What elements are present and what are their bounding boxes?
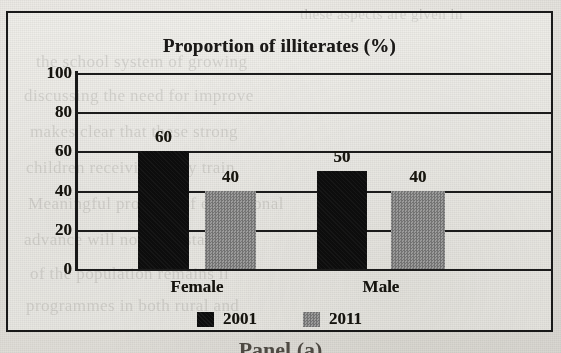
y-axis-tick-60: 60 bbox=[26, 141, 72, 161]
bar-female-2011[interactable] bbox=[205, 191, 256, 269]
bar-male-2001[interactable] bbox=[317, 171, 367, 269]
bar-value-label-female-2001: 60 bbox=[155, 127, 172, 147]
bar-male-2011[interactable] bbox=[391, 191, 445, 269]
scanned-page: these aspects are given in the school sy… bbox=[0, 0, 561, 353]
legend-label-2001: 2001 bbox=[223, 309, 257, 329]
bar-value-label-male-2001: 50 bbox=[334, 147, 351, 167]
plot-area: 60504040FemaleMale bbox=[77, 73, 553, 269]
y-axis-tick-80: 80 bbox=[26, 102, 72, 122]
black-swatch bbox=[197, 312, 214, 327]
gridline-0 bbox=[77, 269, 553, 271]
legend-item-2011[interactable]: 2011 bbox=[303, 309, 362, 329]
chart-frame: Proportion of illiterates (%) 0204060801… bbox=[6, 11, 553, 332]
bar-value-label-female-2011: 40 bbox=[222, 167, 239, 187]
y-axis-tick-labels: 020406080100 bbox=[22, 73, 72, 269]
category-label-female: Female bbox=[171, 277, 224, 297]
y-axis-tick-100: 100 bbox=[26, 63, 72, 83]
bar-female-2001[interactable] bbox=[138, 151, 189, 269]
bar-value-label-male-2011: 40 bbox=[410, 167, 427, 187]
gridline-80 bbox=[77, 112, 553, 114]
chart-legend: 20012011 bbox=[8, 309, 551, 329]
gridline-100 bbox=[77, 73, 553, 75]
gray-swatch bbox=[303, 312, 320, 327]
legend-item-2001[interactable]: 2001 bbox=[197, 309, 257, 329]
figure-caption: Panel (a) bbox=[0, 337, 561, 353]
category-label-male: Male bbox=[363, 277, 400, 297]
legend-label-2011: 2011 bbox=[329, 309, 362, 329]
chart-title: Proportion of illiterates (%) bbox=[8, 35, 551, 57]
y-axis-tick-0: 0 bbox=[26, 259, 72, 279]
y-axis-tick-40: 40 bbox=[26, 181, 72, 201]
y-axis-tick-20: 20 bbox=[26, 220, 72, 240]
